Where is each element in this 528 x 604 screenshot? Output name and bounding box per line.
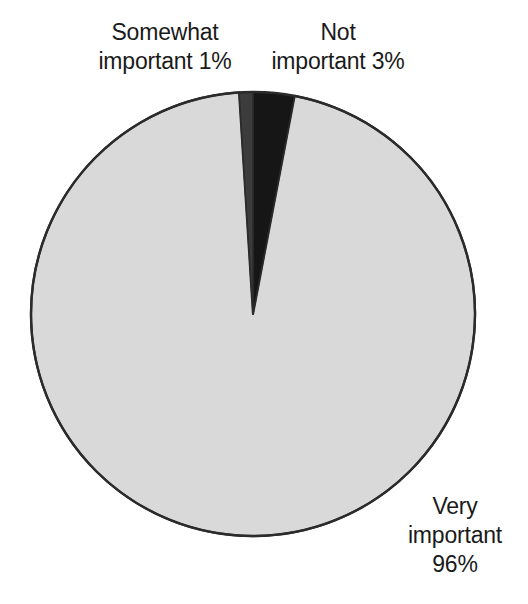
pie-label-not-line2: important 3% [250,47,426,76]
pie-label-not-line1: Not [250,18,426,47]
pie-label-very-line2: important [382,521,528,550]
pie-label-somewhat-line1: Somewhat [52,18,278,47]
pie-label-very-important: Very important 96% [382,492,528,579]
pie-slices [31,92,475,536]
pie-label-somewhat-important: Somewhat important 1% [52,18,278,76]
pie-label-somewhat-line2: important 1% [52,47,278,76]
pie-label-not-important: Not important 3% [250,18,426,76]
pie-label-very-line3: 96% [382,550,528,579]
pie-chart-figure: Somewhat important 1% Not important 3% V… [0,0,528,604]
pie-label-very-line1: Very [382,492,528,521]
